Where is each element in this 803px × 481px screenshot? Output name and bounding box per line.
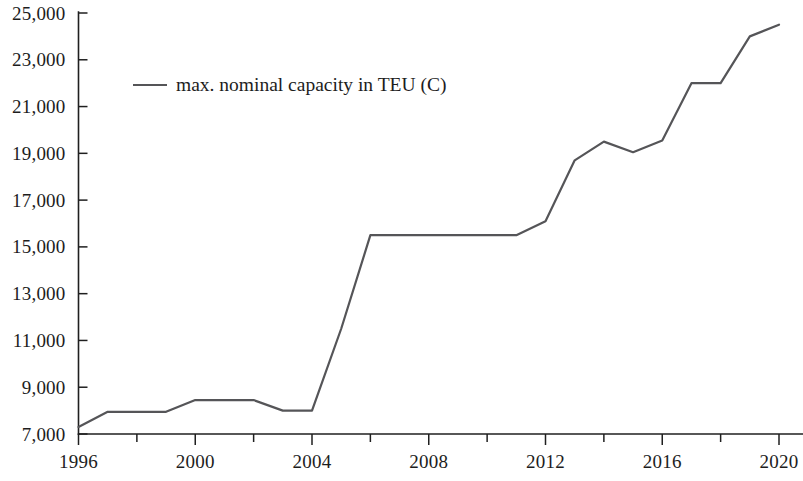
x-axis-tick-labels: 1996200020042008201220162020 bbox=[59, 451, 798, 472]
x-tick-label: 2000 bbox=[176, 451, 215, 472]
y-tick-label: 11,000 bbox=[13, 330, 66, 351]
chart-container: 7,0009,00011,00013,00015,00017,00019,000… bbox=[0, 0, 803, 481]
y-tick-label: 15,000 bbox=[12, 236, 65, 257]
x-tick-label: 1996 bbox=[59, 451, 98, 472]
chart-legend: max. nominal capacity in TEU (C) bbox=[133, 74, 446, 96]
y-tick-label: 13,000 bbox=[12, 283, 65, 304]
y-tick-label: 7,000 bbox=[22, 424, 66, 445]
x-tick-label: 2020 bbox=[760, 451, 799, 472]
legend-entry-label: max. nominal capacity in TEU (C) bbox=[176, 74, 446, 96]
y-axis-tick-marks bbox=[79, 13, 88, 434]
y-axis-tick-labels: 7,0009,00011,00013,00015,00017,00019,000… bbox=[12, 3, 65, 445]
y-tick-label: 9,000 bbox=[22, 377, 66, 398]
y-tick-label: 25,000 bbox=[12, 3, 65, 24]
x-tick-label: 2012 bbox=[526, 451, 565, 472]
y-tick-label: 23,000 bbox=[12, 49, 65, 70]
line-chart: 7,0009,00011,00013,00015,00017,00019,000… bbox=[0, 0, 803, 481]
x-tick-label: 2016 bbox=[643, 451, 682, 472]
x-tick-label: 2008 bbox=[409, 451, 448, 472]
y-tick-label: 17,000 bbox=[12, 190, 65, 211]
y-tick-label: 19,000 bbox=[12, 143, 65, 164]
x-tick-label: 2004 bbox=[293, 451, 332, 472]
y-tick-label: 21,000 bbox=[12, 96, 65, 117]
x-axis-tick-marks bbox=[79, 434, 780, 445]
